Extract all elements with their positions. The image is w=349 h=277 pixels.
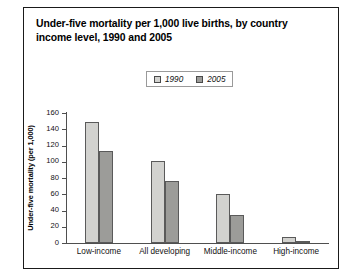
y-axis-tick-label: 40 [51,205,59,214]
y-axis-tick-label: 80 [51,173,59,182]
bar-1990[interactable] [282,237,296,243]
x-axis-tick-label: High-income [273,247,319,256]
legend-label-1990: 1990 [165,75,183,84]
bar-pair [85,113,113,243]
y-axis-tick-label: 120 [46,140,59,149]
bar-2005[interactable] [99,151,113,243]
x-axis-tick-label: Middle-income [204,247,257,256]
x-axis-tick-label: Low-income [77,247,121,256]
x-axis-line [66,243,329,244]
legend-swatch-1990 [154,76,161,83]
y-axis-tick: 0 [62,243,66,244]
chart-title: Under-five mortality per 1,000 live birt… [36,17,326,44]
bar-group: All developing [132,113,198,243]
bar-2005[interactable] [165,181,179,243]
bar-2005[interactable] [296,241,310,243]
legend-swatch-2005 [196,76,203,83]
bar-groups: Low-incomeAll developingMiddle-incomeHig… [66,113,329,243]
chart-legend: 1990 2005 [146,71,233,87]
y-axis-tick-label: 20 [51,221,59,230]
bar-group: Middle-income [198,113,264,243]
plot-area: 020406080100120140160 Low-incomeAll deve… [66,113,329,243]
figure-container: Under-five mortality per 1,000 live birt… [0,0,349,277]
bar-1990[interactable] [85,122,99,243]
bar-group: Low-income [66,113,132,243]
x-axis-tick-label: All developing [139,247,190,256]
legend-entry-1990: 1990 [154,75,183,84]
bar-pair [151,113,179,243]
legend-label-2005: 2005 [207,75,225,84]
y-axis-title: Under-five mortality (per 1,000) [26,113,36,243]
y-axis-tick-label: 60 [51,189,59,198]
bar-pair [282,113,310,243]
bar-1990[interactable] [151,161,165,243]
bar-1990[interactable] [216,194,230,243]
y-axis-tick-label: 140 [46,124,59,133]
y-axis-tick-label: 0 [55,238,59,247]
legend-entry-2005: 2005 [196,75,225,84]
bar-2005[interactable] [230,215,244,243]
bar-group: High-income [263,113,329,243]
y-axis-tick-label: 160 [46,108,59,117]
y-axis-tick-label: 100 [46,156,59,165]
bar-pair [216,113,244,243]
